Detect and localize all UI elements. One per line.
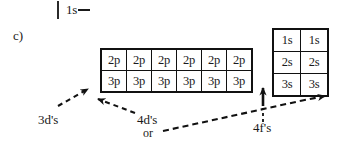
- orbital-cell: 1s: [274, 30, 300, 51]
- top-orbital-label: 1s: [66, 2, 77, 18]
- grid-row: 3p 3p 3p 3p 3p 3p: [102, 70, 251, 91]
- orbital-cell: 2p: [102, 50, 126, 70]
- grid-row: 2p 2p 2p 2p 2p 2p: [102, 50, 251, 70]
- orbital-diagram: 1s c) 2p 2p 2p 2p 2p 2p 3p 3p 3p 3p 3p 3…: [0, 0, 343, 145]
- orbital-cell: 2p: [226, 50, 251, 70]
- orbital-cell: 3p: [126, 71, 151, 91]
- orbital-cell: 3s: [274, 74, 300, 95]
- top-orbital-stub: 1s: [57, 0, 90, 21]
- orbital-cell: 2p: [201, 50, 226, 70]
- orbital-cell: 1s: [300, 30, 327, 51]
- arrow-4f-right: [163, 96, 325, 131]
- orbital-cell: 3s: [300, 74, 327, 95]
- arrow-3d: [58, 89, 88, 106]
- annotation-or: or: [143, 126, 153, 141]
- horizontal-dash-icon: [78, 9, 90, 12]
- orbital-cell: 2p: [151, 50, 176, 70]
- p-orbital-grid: 2p 2p 2p 2p 2p 2p 3p 3p 3p 3p 3p 3p: [100, 48, 253, 93]
- orbital-cell: 3p: [201, 71, 226, 91]
- orbital-cell: 2p: [176, 50, 201, 70]
- vertical-bar-icon: [57, 1, 59, 19]
- grid-row: 1s 1s: [274, 30, 327, 51]
- grid-row: 2s 2s: [274, 51, 327, 73]
- orbital-cell: 2s: [300, 52, 327, 73]
- part-label: c): [13, 28, 23, 44]
- arrow-4d: [98, 99, 135, 113]
- orbital-cell: 2p: [126, 50, 151, 70]
- orbital-cell: 3p: [176, 71, 201, 91]
- grid-row: 3s 3s: [274, 73, 327, 95]
- orbital-cell: 2s: [274, 52, 300, 73]
- orbital-cell: 3p: [151, 71, 176, 91]
- annotation-3d: 3d's: [38, 112, 58, 128]
- s-orbital-grid: 1s 1s 2s 2s 3s 3s: [272, 28, 329, 97]
- orbital-cell: 3p: [102, 71, 126, 91]
- annotation-4f: 4f's: [253, 120, 271, 136]
- orbital-cell: 3p: [226, 71, 251, 91]
